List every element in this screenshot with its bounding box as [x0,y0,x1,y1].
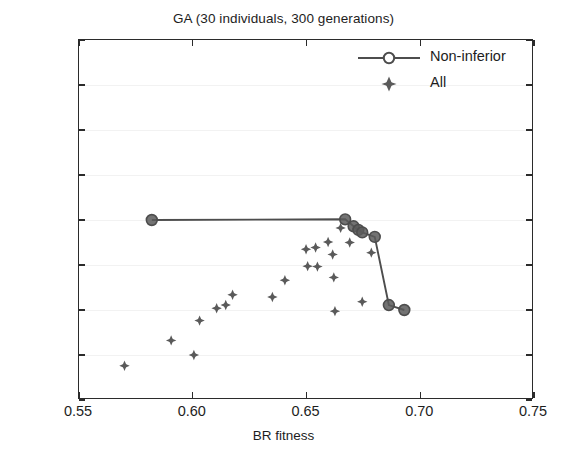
figure-caption [0,449,567,464]
data-point-marker [227,290,237,300]
data-point-marker [399,305,410,316]
data-point-marker [366,247,376,257]
data-point-marker [323,237,333,247]
x-tick-label: 0.55 [48,403,108,419]
data-point-marker [383,300,394,311]
data-point-marker [369,231,380,242]
data-point-marker [345,237,355,247]
series-all [119,223,376,371]
legend-label-all: All [430,74,446,90]
data-point-marker [330,306,340,316]
diamond-icon [356,71,422,97]
x-axis-label: BR fitness [0,428,567,443]
series-non-inferior [146,214,409,315]
x-tick-label: 0.75 [503,403,563,419]
data-point-marker [280,275,290,285]
x-tick-label: 0.65 [276,403,336,419]
data-point-marker [189,350,199,360]
data-point-marker [310,242,320,252]
data-point-marker [166,335,176,345]
data-point-marker [327,249,337,259]
chart-legend: Non-inferior All [356,45,526,97]
x-tick-label: 0.60 [162,403,222,419]
data-point-marker [302,261,312,271]
legend-item-all: All [356,71,526,97]
chart-figure: GA (30 individuals, 300 generations) Mlr… [0,0,567,464]
data-point-marker [146,215,157,226]
legend-item-non-inferior: Non-inferior [356,45,526,71]
data-point-marker [267,292,277,302]
data-point-marker [211,303,221,313]
data-point-marker [301,244,311,254]
data-point-marker [329,272,339,282]
data-point-marker [194,315,204,325]
data-point-marker [357,227,368,238]
x-tick-label: 0.70 [389,403,449,419]
legend-label-non-inferior: Non-inferior [430,48,506,64]
line-circle-icon [356,45,422,71]
data-point-marker [357,296,367,306]
chart-title: GA (30 individuals, 300 generations) [0,11,567,26]
data-point-marker [119,361,129,371]
data-point-marker [221,300,231,310]
data-point-marker [312,261,322,271]
